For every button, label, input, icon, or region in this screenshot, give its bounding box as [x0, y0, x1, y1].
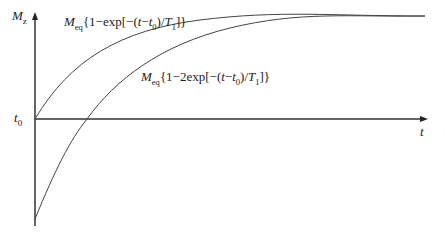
y-axis-label: Mz	[12, 8, 27, 26]
plot-canvas	[0, 0, 445, 236]
x-axis-label: t	[420, 124, 424, 140]
curve2-equation: Meq{1−2exp[−(t−t0)/T1]}	[141, 69, 270, 87]
x-axis-arrow-icon	[420, 116, 428, 122]
y-axis-arrow-icon	[32, 12, 38, 20]
origin-label: t0	[14, 110, 22, 128]
curve-inversion-recovery	[35, 16, 425, 219]
curve1-equation: Meq{1−exp[−(t−t0)/T1]}	[64, 14, 187, 32]
